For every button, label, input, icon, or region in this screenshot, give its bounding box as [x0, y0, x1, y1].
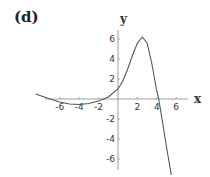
y-tick-label: 6 — [109, 34, 115, 44]
chart-plot: -6-4-2246642-2-4-6 x y — [0, 0, 210, 177]
y-tick-label: -6 — [106, 154, 115, 164]
x-tick-label: 2 — [135, 102, 141, 112]
y-tick-label: 2 — [109, 74, 115, 84]
x-tick-label: 6 — [173, 102, 179, 112]
x-tick-label: -2 — [94, 102, 103, 112]
x-tick-label: -6 — [55, 102, 64, 112]
y-tick-label: -4 — [106, 134, 115, 144]
x-tick-label: -4 — [75, 102, 84, 112]
y-axis-label: y — [119, 12, 128, 26]
y-tick-label: 4 — [109, 54, 115, 64]
y-tick-label: -2 — [106, 114, 115, 124]
x-axis-label: x — [194, 92, 202, 106]
